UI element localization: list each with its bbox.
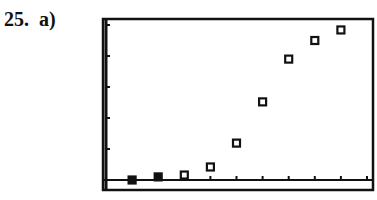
data-point bbox=[337, 26, 344, 33]
data-point bbox=[181, 172, 188, 179]
data-point bbox=[129, 177, 136, 184]
data-point bbox=[155, 173, 162, 180]
data-points bbox=[129, 26, 345, 183]
plot-frame bbox=[103, 19, 373, 190]
data-point bbox=[259, 98, 266, 105]
axes bbox=[103, 19, 372, 190]
data-point bbox=[311, 37, 318, 44]
scatter-plot bbox=[0, 0, 377, 200]
data-point bbox=[207, 163, 214, 170]
data-point bbox=[233, 140, 240, 147]
data-point bbox=[285, 56, 292, 63]
